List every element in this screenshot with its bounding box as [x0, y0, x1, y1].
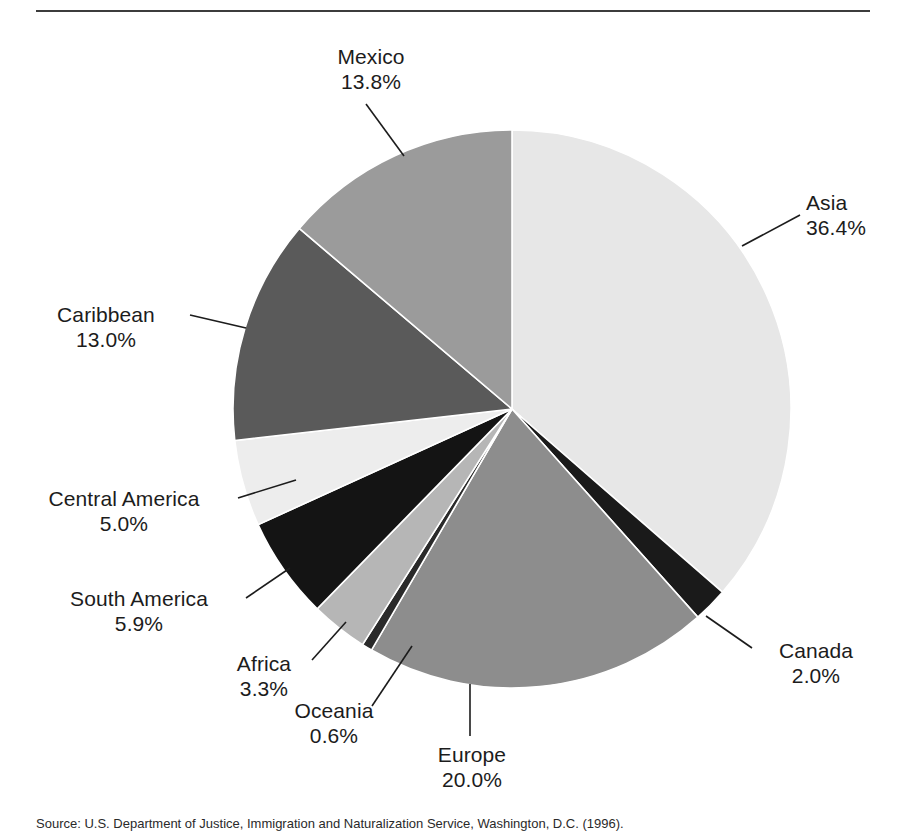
pie-chart-svg	[0, 0, 897, 810]
leader-line-caribbean	[190, 315, 246, 328]
pie-label-canada-name: Canada	[760, 638, 872, 663]
pie-label-central-america: Central America 5.0%	[8, 486, 240, 536]
pie-label-europe-name: Europe	[404, 742, 540, 767]
pie-label-oceania-name: Oceania	[278, 698, 390, 723]
pie-label-mexico: Mexico 13.8%	[296, 44, 446, 94]
pie-label-caribbean-name: Caribbean	[30, 302, 182, 327]
pie-label-central-america-percent: 5.0%	[8, 511, 240, 536]
pie-label-asia-percent: 36.4%	[806, 215, 892, 240]
pie-label-europe-percent: 20.0%	[404, 767, 540, 792]
pie-label-oceania: Oceania 0.6%	[278, 698, 390, 748]
pie-label-south-america-name: South America	[38, 586, 240, 611]
pie-label-mexico-name: Mexico	[296, 44, 446, 69]
pie-label-caribbean: Caribbean 13.0%	[30, 302, 182, 352]
figure-page: Mexico 13.8% Asia 36.4% Caribbean 13.0% …	[0, 0, 897, 835]
pie-label-central-america-name: Central America	[8, 486, 240, 511]
leader-line-mexico	[366, 104, 404, 156]
leader-line-africa	[312, 622, 346, 660]
pie-label-asia-name: Asia	[806, 190, 892, 215]
pie-label-asia: Asia 36.4%	[806, 190, 892, 240]
pie-label-africa: Africa 3.3%	[218, 651, 310, 701]
pie-label-south-america-percent: 5.9%	[38, 611, 240, 636]
figure-caption: Source: U.S. Department of Justice, Immi…	[36, 816, 836, 832]
leader-line-south-america	[246, 568, 290, 598]
pie-label-south-america: South America 5.9%	[38, 586, 240, 636]
pie-chart-figure: Mexico 13.8% Asia 36.4% Caribbean 13.0% …	[0, 0, 897, 810]
leader-line-asia	[742, 215, 800, 246]
pie-label-oceania-percent: 0.6%	[278, 723, 390, 748]
pie-label-caribbean-percent: 13.0%	[30, 327, 182, 352]
pie-label-mexico-percent: 13.8%	[296, 69, 446, 94]
pie-slice-group	[233, 130, 791, 688]
pie-label-canada-percent: 2.0%	[760, 663, 872, 688]
pie-label-canada: Canada 2.0%	[760, 638, 872, 688]
pie-label-africa-name: Africa	[218, 651, 310, 676]
pie-label-europe: Europe 20.0%	[404, 742, 540, 792]
leader-line-canada	[706, 616, 752, 648]
